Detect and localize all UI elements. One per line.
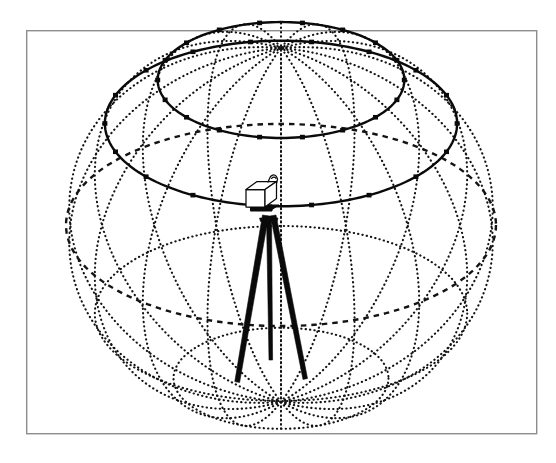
latitude-node-marker [217, 28, 222, 33]
latitude-node-marker [373, 115, 378, 120]
instrument-body-front-face [246, 190, 265, 208]
latitude-node-marker [309, 203, 314, 208]
latitude-node-marker [309, 40, 314, 45]
latitude-node-marker [257, 135, 262, 140]
latitude-node-marker [402, 78, 407, 83]
latitude-node-marker [190, 49, 195, 54]
latitude-node-marker [113, 149, 118, 154]
latitude-node-marker [455, 121, 460, 126]
latitude-node-marker [367, 49, 372, 54]
celestial-sphere-diagram [0, 0, 556, 463]
latitude-node-marker [163, 58, 168, 63]
figure-root [0, 0, 556, 463]
latitude-node-marker [373, 40, 378, 45]
latitude-node-marker [444, 149, 449, 154]
latitude-node-marker [413, 68, 418, 73]
latitude-node-marker [340, 128, 345, 133]
latitude-node-marker [444, 93, 449, 98]
latitude-node-marker [413, 174, 418, 179]
latitude-node-marker [257, 21, 262, 26]
latitude-node-marker [300, 21, 305, 26]
latitude-node-marker [300, 135, 305, 140]
latitude-node-marker [184, 40, 189, 45]
tripod-brace [260, 218, 279, 222]
latitude-node-marker [394, 58, 399, 63]
latitude-node-marker [217, 128, 222, 133]
latitude-node-marker [340, 28, 345, 33]
latitude-node-marker [190, 193, 195, 198]
latitude-node-marker [367, 193, 372, 198]
latitude-node-marker [144, 174, 149, 179]
latitude-node-marker [102, 121, 107, 126]
latitude-node-marker [184, 115, 189, 120]
latitude-node-marker [394, 98, 399, 103]
latitude-node-marker [113, 93, 118, 98]
latitude-node-marker [163, 98, 168, 103]
latitude-node-marker [155, 78, 160, 83]
latitude-node-marker [248, 40, 253, 45]
latitude-node-marker [144, 68, 149, 73]
